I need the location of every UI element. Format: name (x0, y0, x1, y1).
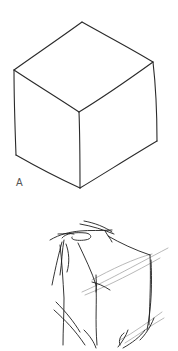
figure-label-a: A (16, 178, 23, 188)
sketch-figure: A (0, 0, 178, 351)
drawing-canvas (0, 0, 178, 351)
